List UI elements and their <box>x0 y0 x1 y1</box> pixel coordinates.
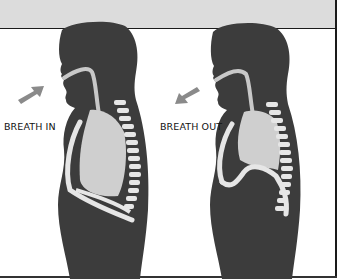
label-breath-in: BREATH IN <box>4 121 56 132</box>
breathing-diagram <box>0 0 339 279</box>
label-breath-out: BREATH OUT <box>160 121 222 132</box>
arrow-out-icon <box>175 87 200 104</box>
arrow-in-icon <box>18 86 44 104</box>
figure-breath-out <box>175 23 301 279</box>
figure-breath-in <box>18 22 149 279</box>
